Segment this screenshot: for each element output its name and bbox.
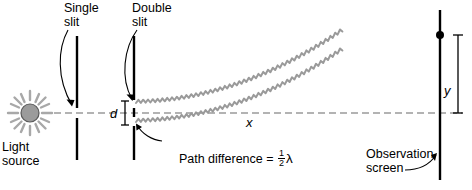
- single-slit-label: Single slit: [64, 2, 99, 29]
- screen-distance-label: x: [246, 116, 253, 130]
- wave-ray-lower: [136, 49, 342, 123]
- fringe-position-label: y: [444, 84, 451, 98]
- observation-screen-label: Observation screen: [366, 148, 433, 175]
- fringe-position-measure: [453, 35, 463, 113]
- light-source-label: Light source: [2, 141, 40, 168]
- path-difference-arrowhead: [136, 124, 142, 131]
- double-slit-diagram: Single slit Double slit Light source Obs…: [0, 0, 472, 190]
- fringe-spot: [436, 31, 444, 39]
- double-slit-arrowhead: [127, 95, 135, 102]
- path-difference-annotation: Path difference = 12λ: [165, 136, 293, 183]
- one-half-fraction: 12: [278, 149, 285, 169]
- double-slit-label: Double slit: [132, 2, 172, 29]
- light-source-bulb: [21, 104, 39, 122]
- lambda-symbol: λ: [286, 151, 293, 166]
- slit-separation-label: d: [110, 107, 117, 121]
- single-slit-leader: [60, 30, 72, 105]
- single-slit-arrowhead: [67, 100, 75, 107]
- fraction-denominator: 2: [278, 159, 285, 169]
- path-difference-text: Path difference =: [179, 152, 277, 166]
